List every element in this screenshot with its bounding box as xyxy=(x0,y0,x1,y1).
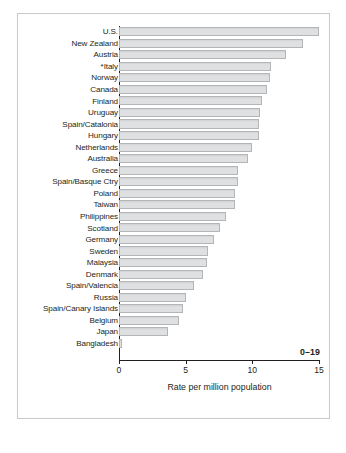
bar-track xyxy=(119,96,319,105)
bar-row: Belgium xyxy=(18,315,331,327)
category-label: Netherlands xyxy=(0,143,118,152)
bar-rows: U.S.New ZealandAustria*ItalyNorwayCanada… xyxy=(18,26,331,349)
bar-row: Netherlands xyxy=(18,141,331,153)
category-label: *Italy xyxy=(0,62,118,71)
bar-chart: U.S.New ZealandAustria*ItalyNorwayCanada… xyxy=(18,14,331,420)
bar-track xyxy=(119,304,319,313)
bar xyxy=(119,27,319,36)
bar-track xyxy=(119,327,319,336)
bar-row: Bangladesh xyxy=(18,338,331,350)
category-label: Russia xyxy=(0,293,118,302)
bar-track xyxy=(119,85,319,94)
category-label: New Zealand xyxy=(0,39,118,48)
bar-track xyxy=(119,119,319,128)
bar xyxy=(119,293,186,302)
category-label: Uruguay xyxy=(0,108,118,117)
bar-track xyxy=(119,166,319,175)
category-label: Taiwan xyxy=(0,200,118,209)
bar-row: Austria xyxy=(18,49,331,61)
x-axis-line xyxy=(119,360,320,361)
bar xyxy=(119,212,226,221)
x-tick-label: 15 xyxy=(314,365,324,375)
category-label: Spain/Catalonia xyxy=(0,120,118,129)
x-axis-title: Rate per million population xyxy=(119,382,320,393)
category-label: Australia xyxy=(0,154,118,163)
bar-row: Germany xyxy=(18,234,331,246)
bar-row: Sweden xyxy=(18,245,331,257)
category-label: Hungary xyxy=(0,131,118,140)
bar-track xyxy=(119,143,319,152)
category-label: Sweden xyxy=(0,247,118,256)
bar xyxy=(119,177,238,186)
bar-track xyxy=(119,258,319,267)
bar xyxy=(119,154,248,163)
bar-row: Spain/Canary Islands xyxy=(18,303,331,315)
bar-track xyxy=(119,223,319,232)
bar-row: Philippines xyxy=(18,211,331,223)
bar xyxy=(119,131,259,140)
x-tick xyxy=(119,360,120,364)
bar xyxy=(119,50,286,59)
category-label: Malaysia xyxy=(0,258,118,267)
bar xyxy=(119,316,179,325)
x-tick xyxy=(186,360,187,364)
bar-row: Canada xyxy=(18,84,331,96)
category-label: Spain/Canary Islands xyxy=(0,304,118,313)
category-label: U.S. xyxy=(0,27,118,36)
bar-row: Spain/Catalonia xyxy=(18,118,331,130)
bar-track xyxy=(119,246,319,255)
bar xyxy=(119,200,235,209)
bar xyxy=(119,223,220,232)
bar xyxy=(119,235,214,244)
bar xyxy=(119,73,270,82)
bar-track xyxy=(119,212,319,221)
bar-track xyxy=(119,281,319,290)
category-label: Finland xyxy=(0,97,118,106)
range-annotation: 0–19 xyxy=(300,347,320,357)
bar xyxy=(119,108,260,117)
bar xyxy=(119,189,235,198)
figure-caption xyxy=(19,434,319,444)
bar xyxy=(119,166,238,175)
bar-track xyxy=(119,27,319,36)
bar xyxy=(119,270,203,279)
bar-row: Hungary xyxy=(18,130,331,142)
figure-plate: U.S.New ZealandAustria*ItalyNorwayCanada… xyxy=(17,13,330,419)
bar-row: U.S. xyxy=(18,26,331,38)
bar-row: Greece xyxy=(18,165,331,177)
bar xyxy=(119,119,259,128)
bar-track xyxy=(119,189,319,198)
category-label: Germany xyxy=(0,235,118,244)
category-label: Denmark xyxy=(0,270,118,279)
bar-row: *Italy xyxy=(18,61,331,73)
x-tick xyxy=(319,360,320,364)
bar-row: Poland xyxy=(18,188,331,200)
bar xyxy=(119,39,303,48)
category-label: Austria xyxy=(0,50,118,59)
bar xyxy=(119,96,262,105)
bar-row: Finland xyxy=(18,95,331,107)
bar-row: Japan xyxy=(18,326,331,338)
bar-track xyxy=(119,339,319,348)
bar-track xyxy=(119,235,319,244)
bar-track xyxy=(119,39,319,48)
bar xyxy=(119,62,271,71)
bar-track xyxy=(119,73,319,82)
category-label: Spain/Valencia xyxy=(0,281,118,290)
category-label: Canada xyxy=(0,85,118,94)
bar-track xyxy=(119,131,319,140)
x-tick xyxy=(252,360,253,364)
bar-row: Malaysia xyxy=(18,257,331,269)
bar-track xyxy=(119,177,319,186)
category-label: Japan xyxy=(0,327,118,336)
bar-row: Spain/Basque Ctry xyxy=(18,176,331,188)
category-label: Norway xyxy=(0,73,118,82)
category-label: Bangladesh xyxy=(0,339,118,348)
category-label: Belgium xyxy=(0,316,118,325)
category-label: Philippines xyxy=(0,212,118,221)
category-label: Greece xyxy=(0,166,118,175)
bar xyxy=(119,281,194,290)
bar-row: Norway xyxy=(18,72,331,84)
bar xyxy=(119,304,183,313)
bar-row: Uruguay xyxy=(18,107,331,119)
